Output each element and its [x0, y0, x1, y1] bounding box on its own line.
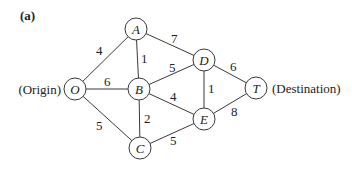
- node-C: C: [129, 137, 151, 159]
- weight-O-B: 6: [104, 74, 111, 89]
- svg-text:B: B: [135, 82, 143, 97]
- weight-O-A: 4: [96, 43, 103, 58]
- svg-text:C: C: [136, 141, 145, 156]
- weight-A-D: 7: [171, 31, 178, 46]
- origin-label: (Origin): [18, 82, 61, 97]
- svg-text:D: D: [198, 53, 209, 68]
- svg-text:O: O: [70, 82, 80, 97]
- weight-A-B: 1: [141, 51, 148, 66]
- weight-D-T: 6: [230, 59, 237, 74]
- weight-E-T: 8: [231, 104, 238, 119]
- weight-B-E: 4: [170, 89, 177, 104]
- edge-O-C: [75, 89, 140, 148]
- svg-text:A: A: [131, 22, 140, 37]
- weight-D-E: 1: [208, 81, 215, 96]
- network-diagram: (a) 4 6 5 1 7 5 4 2 5 1 6 8 O A B C D E: [0, 0, 352, 171]
- weight-B-D: 5: [169, 60, 176, 75]
- node-D: D: [193, 49, 215, 71]
- destination-label: (Destination): [272, 81, 341, 96]
- node-B: B: [128, 78, 150, 100]
- svg-text:T: T: [252, 81, 260, 96]
- svg-text:E: E: [199, 112, 208, 127]
- weight-C-E: 5: [170, 133, 177, 148]
- node-T: T: [245, 77, 267, 99]
- node-A: A: [125, 18, 147, 40]
- node-E: E: [193, 108, 215, 130]
- weight-B-C: 2: [144, 111, 151, 126]
- panel-label: (a): [20, 8, 35, 23]
- weight-O-C: 5: [96, 118, 103, 133]
- node-O: O: [64, 78, 86, 100]
